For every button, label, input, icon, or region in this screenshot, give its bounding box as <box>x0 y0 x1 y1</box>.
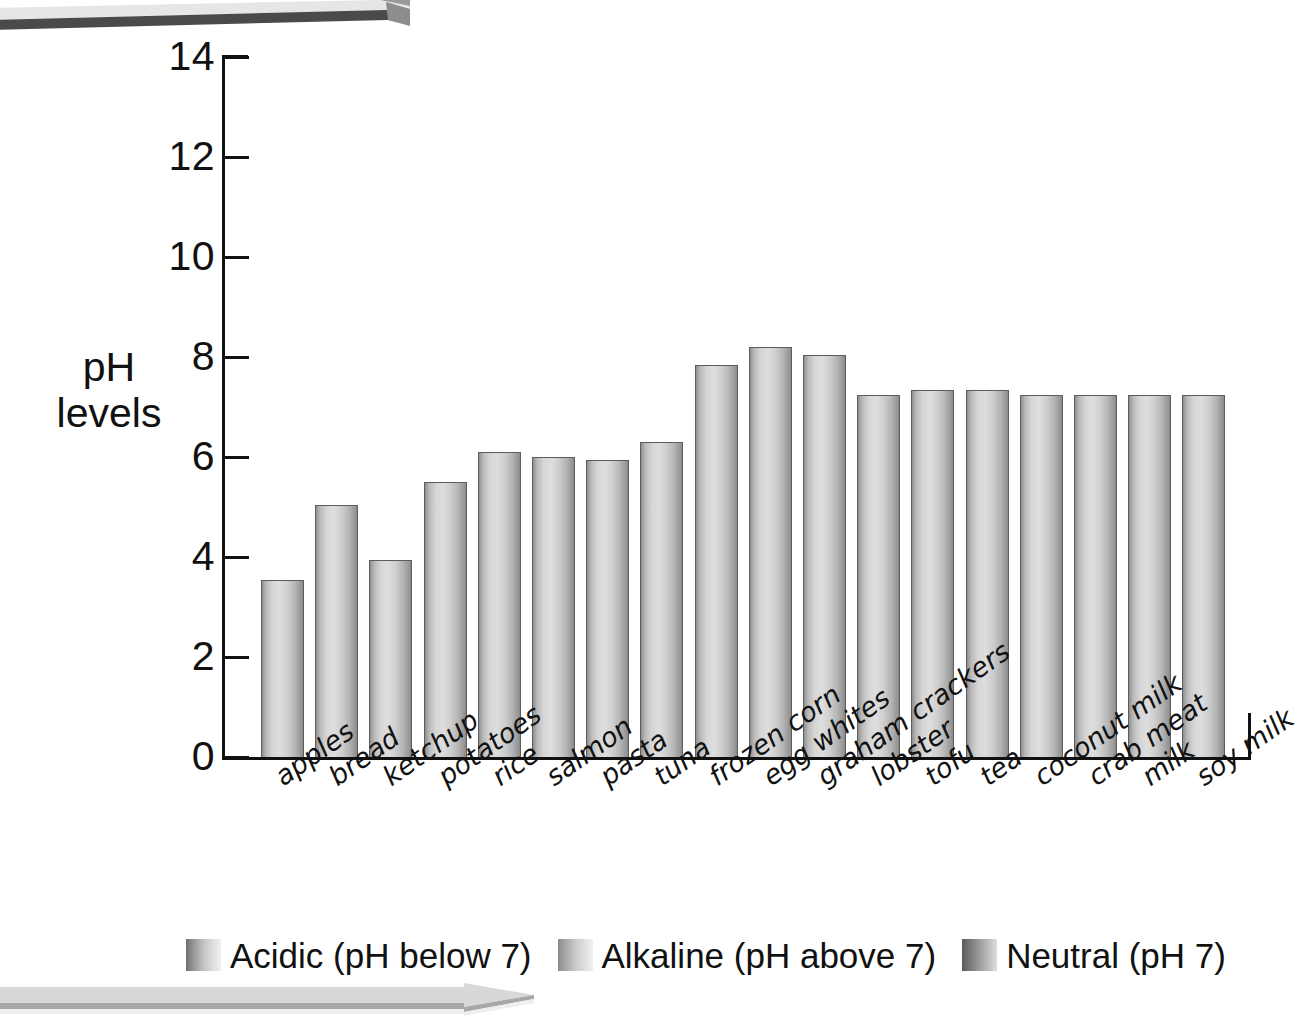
y-axis-title-line1: pH <box>24 344 194 390</box>
bar-apples[interactable] <box>261 580 304 758</box>
legend-item-2[interactable]: Neutral (pH 7) <box>962 938 1226 973</box>
chart-legend: Acidic (pH below 7)Alkaline (pH above 7)… <box>186 933 1286 977</box>
bar-series <box>222 55 1252 757</box>
y-tick-label-8: 8 <box>192 336 215 377</box>
y-tick-label-2: 2 <box>192 636 215 677</box>
bar-coconut-milk[interactable] <box>1020 395 1063 758</box>
top-banner-decoration <box>0 0 410 32</box>
legend-label-1: Alkaline (pH above 7) <box>602 938 937 973</box>
swatch-neutral-icon <box>962 939 997 971</box>
legend-item-0[interactable]: Acidic (pH below 7) <box>186 938 532 973</box>
swatch-alkaline-icon <box>558 939 593 971</box>
bar-tea[interactable] <box>966 390 1009 758</box>
y-axis-title: pH levels <box>24 344 194 436</box>
y-tick-label-12: 12 <box>168 136 215 177</box>
y-tick-label-6: 6 <box>192 436 215 477</box>
y-axis-title-line2: levels <box>24 390 194 436</box>
bar-crab-meat[interactable] <box>1074 395 1117 758</box>
bar-egg-whites[interactable] <box>749 347 792 757</box>
legend-label-0: Acidic (pH below 7) <box>230 938 532 973</box>
y-tick-label-0: 0 <box>192 736 215 777</box>
legend-label-2: Neutral (pH 7) <box>1006 938 1226 973</box>
plot-area <box>222 55 1252 760</box>
swatch-acidic-icon <box>186 939 221 971</box>
bar-frozen-corn[interactable] <box>695 365 738 758</box>
bar-tuna[interactable] <box>640 442 683 757</box>
x-axis-labels: applesbreadketchuppotatoesricesalmonpast… <box>222 762 1282 932</box>
y-tick-label-14: 14 <box>168 36 215 77</box>
legend-item-1[interactable]: Alkaline (pH above 7) <box>558 938 937 973</box>
y-tick-label-10: 10 <box>168 236 215 277</box>
bottom-banner-decoration <box>0 983 534 1016</box>
y-tick-label-4: 4 <box>192 536 215 577</box>
chart-canvas: pH levels 14121086420 applesbreadketchup… <box>0 0 1299 1016</box>
bar-pasta[interactable] <box>586 460 629 758</box>
